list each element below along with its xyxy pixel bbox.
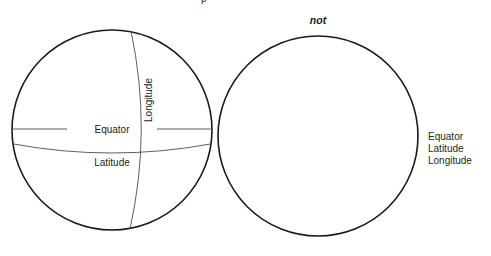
left-globe-longitude-label: Longitude	[143, 78, 154, 122]
right-globe-group: not Equator Latitude Longitude	[218, 14, 472, 236]
globe-comparison-figure: p Equator Latitude Longitude not Equator…	[0, 0, 491, 256]
right-globe-label-longitude: Longitude	[428, 155, 472, 166]
left-globe-group: Equator Latitude Longitude	[12, 30, 212, 230]
figure-canvas: Equator Latitude Longitude not Equator L…	[0, 0, 491, 256]
left-globe-latitude-label: Latitude	[94, 157, 130, 168]
right-globe-label-equator: Equator	[428, 131, 464, 142]
left-globe-equator-label: Equator	[94, 124, 130, 135]
right-globe-outline	[218, 36, 418, 236]
not-caption: not	[310, 14, 327, 26]
right-globe-label-latitude: Latitude	[428, 143, 464, 154]
cropped-title-fragment: p	[201, 0, 207, 4]
